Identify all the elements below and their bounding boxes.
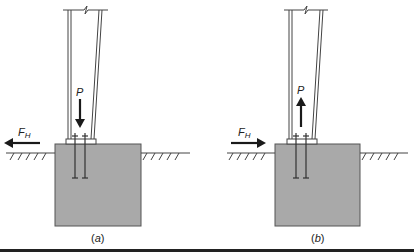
base-plate: [66, 139, 96, 144]
axial-load-label: P: [76, 86, 84, 98]
panel-a: P FH (a): [4, 6, 190, 244]
horizontal-load-label: FH: [238, 126, 251, 140]
ground-line-left: [6, 153, 55, 160]
ground-line-left: [227, 153, 275, 160]
horizontal-load-label: FH: [18, 126, 31, 140]
steel-column: [63, 6, 108, 139]
axial-load-arrow-down: [75, 99, 85, 128]
concrete-footing: [275, 144, 360, 226]
ground-line-right: [360, 153, 408, 160]
panel-caption-b: (b): [311, 232, 324, 244]
concrete-footing: [55, 144, 141, 226]
panel-caption-a: (a): [91, 232, 104, 244]
break-line: [63, 6, 108, 14]
break-line: [284, 6, 328, 14]
steel-column: [284, 6, 328, 139]
base-plate: [287, 139, 317, 144]
horizontal-load-arrow-left: [4, 138, 40, 148]
column-footing-diagram: P FH (a): [0, 0, 414, 252]
axial-load-arrow-up: [296, 97, 306, 127]
axial-load-label: P: [297, 84, 305, 96]
ground-line-right: [141, 153, 190, 160]
panel-b: P FH (b): [227, 6, 408, 244]
